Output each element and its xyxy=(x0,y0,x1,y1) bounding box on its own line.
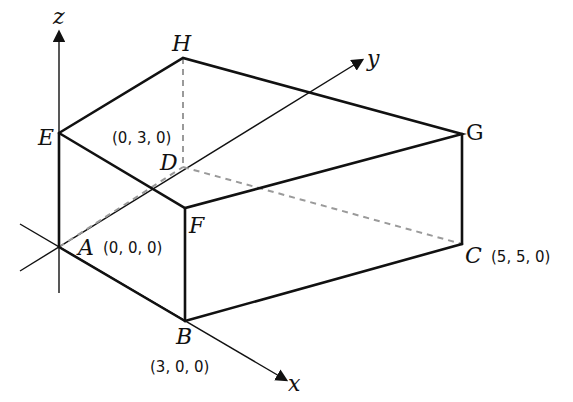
coord-label-B: (3, 0, 0) xyxy=(150,358,209,376)
diagram-canvas: z y x H E D F A B G C (0, 3, 0) (0, 0, 0… xyxy=(0,0,573,402)
vertex-label-C: C xyxy=(465,243,482,268)
vertex-label-E: E xyxy=(37,125,54,150)
coord-label-D: (0, 3, 0) xyxy=(112,129,171,147)
vertex-label-B: B xyxy=(175,324,192,349)
x-axis-label: x xyxy=(288,371,301,396)
edge-BC xyxy=(185,244,462,321)
vertex-label-F: F xyxy=(188,213,205,238)
y-axis-label: y xyxy=(366,46,380,71)
vertex-label-A: A xyxy=(76,235,94,260)
z-axis-label: z xyxy=(52,4,65,29)
vertex-label-H: H xyxy=(171,31,192,56)
coord-label-A: (0, 0, 0) xyxy=(103,239,162,257)
coord-label-C: (5, 5, 0) xyxy=(491,248,550,266)
vertex-label-G: G xyxy=(466,120,484,145)
hidden-edge-DC xyxy=(183,167,462,244)
vertex-label-D: D xyxy=(159,150,178,175)
